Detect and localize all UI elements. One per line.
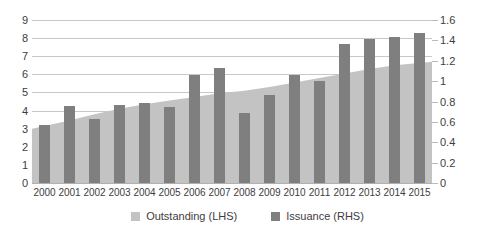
right-axis-tick-mark-1.6 — [432, 20, 438, 21]
right-axis-tick-1.2: 1.2 — [440, 56, 470, 67]
right-axis-tick-1.4: 1.4 — [440, 35, 470, 46]
bar-series-issuance — [32, 0, 432, 200]
left-axis-tick-7: 7 — [4, 51, 28, 62]
right-axis-tick-1.6: 1.6 — [440, 15, 470, 26]
left-axis-tick-8: 8 — [4, 33, 28, 44]
legend-swatch-issuance — [271, 212, 280, 221]
chart-legend: Outstanding (LHS) Issuance (RHS) — [0, 206, 495, 226]
right-axis-tick-mark-0 — [432, 183, 438, 184]
issuance-outstanding-chart: 0123456789 00.20.40.60.811.21.41.6 20002… — [0, 0, 495, 243]
right-axis-tick-0: 0 — [440, 178, 470, 189]
right-axis-tick-1: 1 — [440, 76, 470, 87]
left-axis-tick-3: 3 — [4, 124, 28, 135]
bar-2011 — [314, 81, 325, 183]
bar-2003 — [114, 105, 125, 183]
right-axis-tick-mark-0.8 — [432, 102, 438, 103]
bar-2009 — [264, 95, 275, 183]
right-axis-tick-mark-0.6 — [432, 122, 438, 123]
bar-2004 — [139, 103, 150, 183]
bar-2007 — [214, 68, 225, 183]
left-axis-tick-4: 4 — [4, 106, 28, 117]
plot-area: 0123456789 00.20.40.60.811.21.41.6 20002… — [0, 0, 495, 200]
bar-2005 — [164, 107, 175, 183]
bar-2008 — [239, 113, 250, 183]
legend-label-outstanding: Outstanding (LHS) — [146, 211, 237, 222]
bar-2010 — [289, 75, 300, 183]
legend-item-issuance: Issuance (RHS) — [271, 211, 364, 222]
left-axis-tick-1: 1 — [4, 160, 28, 171]
legend-item-outstanding: Outstanding (LHS) — [131, 211, 237, 222]
bar-2000 — [39, 125, 50, 183]
bar-2012 — [339, 44, 350, 183]
bar-2002 — [89, 119, 100, 183]
right-axis-tick-mark-1.2 — [432, 61, 438, 62]
left-axis-tick-5: 5 — [4, 87, 28, 98]
right-axis-tick-mark-1 — [432, 81, 438, 82]
bar-2001 — [64, 106, 75, 183]
bar-2013 — [364, 39, 375, 183]
right-axis-tick-0.2: 0.2 — [440, 158, 470, 169]
bar-2015 — [414, 33, 425, 183]
left-axis-tick-0: 0 — [4, 178, 28, 189]
left-axis-tick-6: 6 — [4, 69, 28, 80]
right-axis-tick-mark-1.4 — [432, 40, 438, 41]
left-axis-tick-9: 9 — [4, 15, 28, 26]
left-axis-tick-2: 2 — [4, 142, 28, 153]
x-axis-label-2015: 2015 — [403, 188, 437, 198]
right-axis-tick-0.8: 0.8 — [440, 97, 470, 108]
right-axis-tick-0.4: 0.4 — [440, 137, 470, 148]
legend-label-issuance: Issuance (RHS) — [286, 211, 364, 222]
right-axis-tick-mark-0.4 — [432, 142, 438, 143]
legend-swatch-outstanding — [131, 212, 140, 221]
right-axis-tick-0.6: 0.6 — [440, 117, 470, 128]
bar-2006 — [189, 75, 200, 183]
right-axis-tick-mark-0.2 — [432, 163, 438, 164]
bar-2014 — [389, 37, 400, 183]
